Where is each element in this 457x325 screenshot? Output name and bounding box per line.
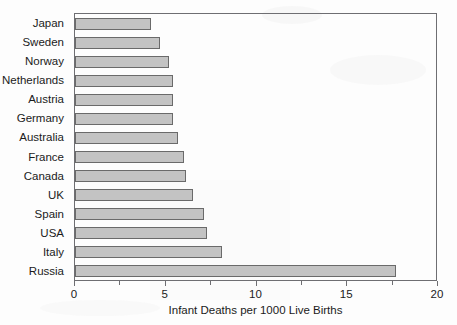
y-axis-label: Russia [0,265,69,277]
x-axis-tick-label: 5 [162,288,168,300]
bar [75,208,204,220]
x-axis-minor-tick [119,281,120,285]
bar [75,37,160,49]
bar [75,246,222,258]
bar [75,75,173,87]
y-axis-label: Spain [0,208,69,220]
bar-row [75,37,436,49]
bar-row [75,151,436,163]
bar-row [75,227,436,239]
x-axis-title: Infant Deaths per 1000 Live Births [74,304,437,316]
bar-row [75,18,436,30]
x-axis-tick-label: 20 [431,288,444,300]
y-axis-label: Japan [0,17,69,29]
bar [75,265,396,277]
x-axis-minor-tick [210,281,211,285]
x-axis-tick-label: 10 [249,288,262,300]
y-axis-label: Germany [0,112,69,124]
x-axis-major-tick [346,281,347,286]
bar-row [75,75,436,87]
bar-series [75,14,436,280]
y-axis-label: Austria [0,93,69,105]
x-axis-minor-tick [392,281,393,285]
y-axis-label: Norway [0,55,69,67]
y-axis-label: Sweden [0,36,69,48]
x-axis-major-tick [165,281,166,286]
x-axis-minor-tick [301,281,302,285]
bar-row [75,246,436,258]
bar [75,18,151,30]
bar-row [75,208,436,220]
y-axis-label: Australia [0,131,69,143]
bar [75,151,184,163]
bar-row [75,265,436,277]
y-axis-category-labels: JapanSwedenNorwayNetherlandsAustriaGerma… [0,13,69,281]
bar-row [75,56,436,68]
plot-area [74,13,437,281]
bar [75,170,186,182]
bar-row [75,132,436,144]
x-axis-major-tick [256,281,257,286]
y-axis-label: UK [0,189,69,201]
x-axis-major-tick [74,281,75,286]
bar-row [75,170,436,182]
bar [75,113,173,125]
x-axis-major-tick [437,281,438,286]
bar [75,56,169,68]
bar [75,189,193,201]
y-axis-label: France [0,151,69,163]
y-axis-label: USA [0,227,69,239]
chart-page: JapanSwedenNorwayNetherlandsAustriaGerma… [0,0,457,325]
y-axis-label: Netherlands [0,74,69,86]
y-axis-label: Italy [0,246,69,258]
bar-row [75,189,436,201]
bar [75,132,178,144]
bar-row [75,113,436,125]
x-axis-tick-label: 15 [340,288,353,300]
bar-row [75,94,436,106]
bar [75,227,207,239]
x-axis-tick-label: 0 [71,288,77,300]
y-axis-label: Canada [0,170,69,182]
bar [75,94,173,106]
